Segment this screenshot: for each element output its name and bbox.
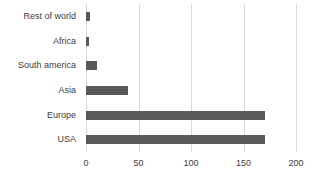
bar-usa	[86, 135, 265, 144]
category-label-usa: USA	[0, 127, 79, 152]
category-label-asia: Asia	[0, 78, 79, 103]
category-label-africa: Africa	[0, 29, 79, 54]
category-label-europe: Europe	[0, 103, 79, 128]
bar-africa	[86, 37, 89, 46]
x-tick-label-100: 100	[178, 156, 204, 170]
bar-row-asia	[86, 78, 299, 103]
bar-row-south-america	[86, 53, 299, 78]
category-label-south-america: South america	[0, 53, 79, 78]
bar-south-america	[86, 61, 97, 70]
horizontal-bar-chart: Rest of worldAfricaSouth americaAsiaEuro…	[0, 0, 321, 185]
y-axis-category-labels: Rest of worldAfricaSouth americaAsiaEuro…	[0, 4, 79, 152]
x-tick-label-50: 50	[126, 156, 152, 170]
bar-row-usa	[86, 127, 299, 152]
bar-series	[86, 4, 299, 152]
bar-rest-of-world	[86, 12, 90, 21]
x-tick-label-0: 0	[73, 156, 99, 170]
category-label-rest-of-world: Rest of world	[0, 4, 79, 29]
plot-area	[86, 4, 299, 152]
bar-asia	[86, 86, 128, 95]
bar-row-europe	[86, 103, 299, 128]
x-axis-tick-labels: 050100150200	[86, 156, 299, 170]
bar-row-africa	[86, 29, 299, 54]
x-tick-label-150: 150	[231, 156, 257, 170]
bar-europe	[86, 111, 265, 120]
x-tick-label-200: 200	[283, 156, 309, 170]
bar-row-rest-of-world	[86, 4, 299, 29]
